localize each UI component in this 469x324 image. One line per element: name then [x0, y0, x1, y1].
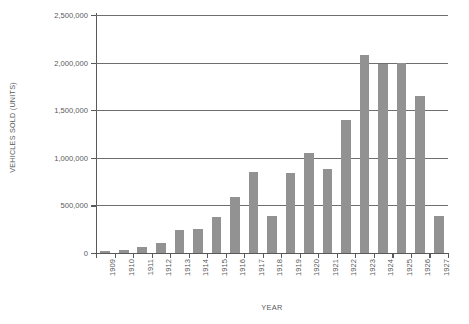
x-axis-tick-label: 1927 [442, 259, 451, 276]
bar [434, 216, 444, 253]
x-axis-tick-mark [318, 253, 319, 258]
x-axis-tick-mark [429, 253, 430, 258]
x-axis-tick-mark [189, 253, 190, 258]
y-axis-tick-label: 500,000 [61, 201, 88, 210]
y-axis-title-text: VEHICLES SOLD (UNITS) [8, 82, 17, 173]
x-axis-tick-mark [374, 253, 375, 258]
bar [175, 230, 185, 253]
bar [415, 96, 425, 253]
y-axis-tick-mark [91, 158, 96, 159]
bar [378, 64, 388, 253]
x-axis-tick-label: 1918 [275, 259, 284, 276]
y-axis-tick-mark [91, 15, 96, 16]
x-axis-tick-mark [281, 253, 282, 258]
x-axis-tick-mark [263, 253, 264, 258]
x-axis-tick-mark [244, 253, 245, 258]
x-axis-tick-label: 1919 [294, 259, 303, 276]
y-axis-tick-mark [91, 63, 96, 64]
x-axis-tick-mark [392, 253, 393, 258]
x-axis-tick-mark [300, 253, 301, 258]
x-axis-tick-label: 1910 [127, 259, 136, 276]
x-axis-tick-mark [337, 253, 338, 258]
bar [230, 197, 240, 253]
bar [304, 153, 314, 253]
y-axis-tick-label: 0 [84, 249, 88, 258]
y-axis-tick-mark [91, 205, 96, 206]
bar [249, 172, 259, 253]
x-axis-tick-mark [448, 253, 449, 258]
x-axis-tick-label: 1917 [257, 259, 266, 276]
x-axis-tick-mark [170, 253, 171, 258]
bar [286, 173, 296, 253]
x-axis-tick-mark [133, 253, 134, 258]
bar [323, 169, 333, 253]
y-axis-tick-label: 1,000,000 [54, 153, 88, 162]
x-axis-tick-mark [152, 253, 153, 258]
y-axis-tick-mark [91, 253, 96, 254]
y-axis-tick-label: 2,000,000 [54, 58, 88, 67]
x-axis-tick-labels: 1909191019111912191319141915191619171918… [96, 259, 448, 299]
x-axis-tick-mark [115, 253, 116, 258]
x-axis-tick-label: 1916 [238, 259, 247, 276]
bar-series [96, 15, 448, 253]
y-axis-tick-label: 2,500,000 [54, 11, 88, 20]
x-axis-tick-label: 1923 [368, 259, 377, 276]
x-axis-tick-label: 1921 [331, 259, 340, 276]
x-axis-title: YEAR [96, 303, 448, 312]
x-axis-tick-label: 1926 [423, 259, 432, 276]
bar [267, 216, 277, 253]
plot-area [96, 15, 448, 253]
x-axis-tick-mark [226, 253, 227, 258]
x-axis-tick-label: 1925 [405, 259, 414, 276]
x-axis-tick-label: 1913 [183, 259, 192, 276]
x-axis-tick-label: 1912 [164, 259, 173, 276]
y-axis-tick-label: 1,500,000 [54, 106, 88, 115]
bar [212, 217, 222, 253]
bar [156, 243, 166, 253]
bar [360, 55, 370, 253]
y-axis-tick-labels: 0500,0001,000,0001,500,0002,000,0002,500… [20, 0, 92, 260]
x-axis-tick-mark [207, 253, 208, 258]
x-axis-tick-label: 1922 [349, 259, 358, 276]
x-axis-tick-mark [96, 253, 97, 258]
bar [341, 120, 351, 253]
y-axis-tick-mark [91, 110, 96, 111]
bar [193, 229, 203, 253]
x-axis-tick-label: 1911 [146, 259, 155, 275]
bar-chart: VEHICLES SOLD (UNITS) 0500,0001,000,0001… [0, 0, 469, 324]
x-axis-tick-mark [411, 253, 412, 258]
x-axis-tick-label: 1920 [312, 259, 321, 276]
x-axis-tick-label: 1914 [201, 259, 210, 276]
x-axis-tick-label: 1924 [386, 259, 395, 276]
bar [397, 63, 407, 253]
x-axis-tick-mark [355, 253, 356, 258]
x-axis-tick-label: 1915 [220, 259, 229, 276]
x-axis-tick-label: 1909 [108, 259, 117, 276]
